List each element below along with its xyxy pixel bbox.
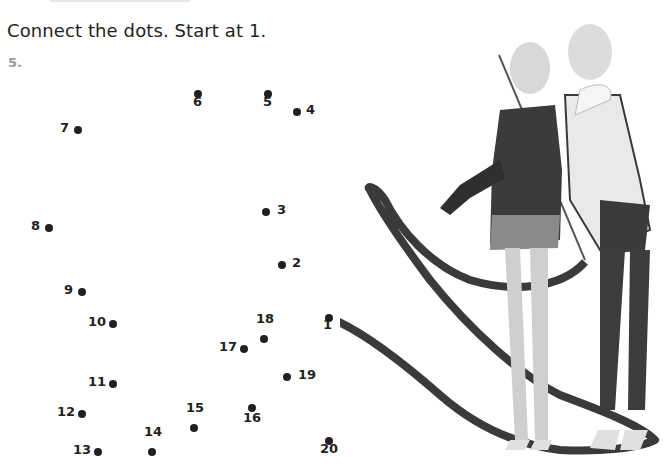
dot-19 [283,373,291,381]
dot-label-2: 2 [292,256,301,269]
dot-label-16: 16 [243,411,261,424]
dot-label-6: 6 [193,95,202,108]
dot-label-13: 13 [73,443,91,456]
dot-label-5: 5 [263,95,272,108]
dot-label-4: 4 [306,103,315,116]
dot-label-12: 12 [57,405,75,418]
instruction-text: Connect the dots. Start at 1. [7,20,266,41]
dot-13 [94,448,102,456]
dot-10 [109,320,117,328]
dot-label-3: 3 [277,203,286,216]
dot-label-20: 20 [320,442,338,455]
dot-label-9: 9 [64,283,73,296]
dot-4 [293,108,301,116]
dot-label-10: 10 [88,315,106,328]
dot-17 [240,345,248,353]
dot-3 [262,208,270,216]
dot-label-11: 11 [88,375,106,388]
dot-label-19: 19 [298,368,316,381]
dot-label-8: 8 [31,219,40,232]
dot-label-7: 7 [60,121,69,134]
dot-9 [78,288,86,296]
dot-15 [190,424,198,432]
dot-18 [260,335,268,343]
question-number: 5. [8,55,22,70]
dot-label-18: 18 [256,312,274,325]
gymnasts-photo [340,0,671,474]
dot-label-14: 14 [144,425,162,438]
dot-label-1: 1 [323,318,332,331]
dot-11 [109,380,117,388]
dot-12 [78,410,86,418]
page-top-rule [50,0,190,2]
dot-2 [278,261,286,269]
dot-8 [45,224,53,232]
dot-7 [74,126,82,134]
dot-label-15: 15 [186,401,204,414]
dot-14 [148,448,156,456]
dot-label-17: 17 [219,340,237,353]
